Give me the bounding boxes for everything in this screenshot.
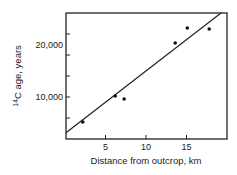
y-tick-20000: 20,000	[35, 40, 63, 50]
x-tick-10: 10	[141, 142, 151, 152]
y-axis-label: 14C age, years	[12, 45, 23, 107]
x-axis-label: Distance from outcrop, km	[91, 155, 202, 166]
fit-line	[66, 13, 221, 133]
data-points	[81, 26, 211, 124]
chart: 5 10 15 10,000 20,000 Distance from outc…	[0, 0, 237, 175]
plot-frame	[66, 13, 227, 139]
x-tick-15: 15	[181, 142, 191, 152]
y-tick-10000: 10,000	[35, 92, 63, 102]
x-tick-5: 5	[103, 142, 108, 152]
svg-text:14C age, years: 14C age, years	[12, 45, 23, 107]
